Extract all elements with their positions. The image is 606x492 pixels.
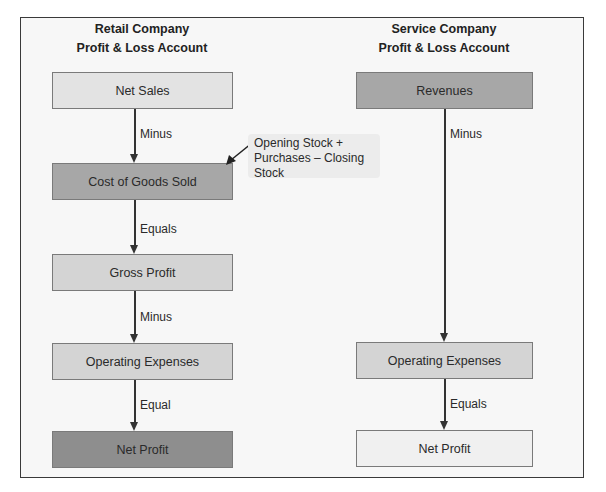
- retail-arrow-line-4: [134, 380, 136, 423]
- note-line-2: Purchases – Closing: [254, 151, 374, 166]
- service-connector-minus: Minus: [450, 127, 482, 141]
- retail-connector-equals: Equals: [140, 222, 177, 236]
- retail-box-operating-expenses: Operating Expenses: [52, 343, 233, 380]
- retail-connector-minus-1: Minus: [140, 127, 172, 141]
- arrow-down-icon: [130, 245, 138, 254]
- service-arrow-line-2: [444, 379, 446, 422]
- note-line-3: Stock: [254, 166, 374, 181]
- arrow-down-icon: [130, 334, 138, 343]
- retail-box-cost-of-goods-sold: Cost of Goods Sold: [52, 163, 233, 200]
- service-arrow-line-1: [444, 109, 446, 334]
- retail-box-net-sales: Net Sales: [52, 72, 233, 109]
- retail-box-net-profit: Net Profit: [52, 431, 233, 468]
- arrow-down-icon: [130, 154, 138, 163]
- arrow-down-icon: [440, 421, 448, 430]
- arrow-down-icon: [440, 333, 448, 342]
- retail-arrow-line-1: [134, 109, 136, 155]
- cogs-formula-note: Opening Stock + Purchases – Closing Stoc…: [248, 134, 380, 178]
- retail-title: Retail Company: [52, 22, 232, 36]
- arrow-down-icon: [130, 422, 138, 431]
- service-title: Service Company: [354, 22, 534, 36]
- service-connector-equals: Equals: [450, 397, 487, 411]
- retail-arrow-line-2: [134, 200, 136, 246]
- retail-box-gross-profit: Gross Profit: [52, 254, 233, 291]
- note-line-1: Opening Stock +: [254, 136, 374, 151]
- retail-connector-minus-2: Minus: [140, 310, 172, 324]
- service-subtitle: Profit & Loss Account: [344, 41, 544, 55]
- service-box-operating-expenses: Operating Expenses: [356, 342, 533, 379]
- service-box-net-profit: Net Profit: [356, 430, 533, 467]
- retail-subtitle: Profit & Loss Account: [42, 41, 242, 55]
- retail-connector-equal: Equal: [140, 398, 171, 412]
- service-box-revenues: Revenues: [356, 72, 533, 109]
- retail-arrow-line-3: [134, 291, 136, 335]
